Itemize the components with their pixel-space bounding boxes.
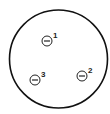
charge-1: 1 (42, 31, 58, 46)
charge-label: 2 (88, 66, 93, 75)
diagram-canvas: 1 2 3 (0, 0, 110, 114)
charge-3: 3 (30, 70, 46, 85)
charge-label: 1 (53, 31, 58, 40)
outer-circle (10, 10, 108, 108)
charge-2: 2 (77, 66, 93, 81)
charge-label: 3 (41, 70, 46, 79)
